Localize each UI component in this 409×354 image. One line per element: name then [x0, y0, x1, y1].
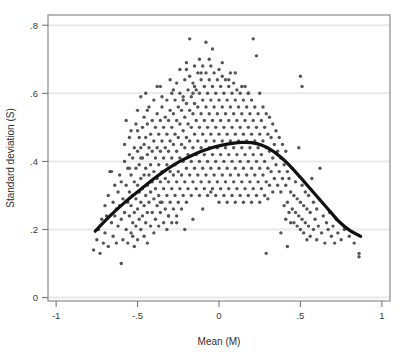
y-tick-label-3: .6 [30, 88, 38, 99]
data-point [190, 95, 193, 98]
data-point [253, 173, 256, 176]
data-point [136, 129, 139, 132]
data-point [199, 146, 202, 149]
data-point [263, 126, 266, 129]
data-point [237, 173, 240, 176]
data-point [206, 160, 209, 163]
chart-canvas: -1-.50.51 0.2.4.6.8 Mean (M) Standard de… [0, 0, 409, 354]
data-point [227, 153, 230, 156]
data-point [225, 167, 228, 170]
data-point [230, 194, 233, 197]
data-point [217, 132, 220, 135]
data-point [178, 68, 181, 71]
data-point [230, 160, 233, 163]
data-point [263, 160, 266, 163]
data-point [188, 109, 191, 112]
data-point [168, 170, 171, 173]
data-point [170, 156, 173, 159]
data-point [291, 207, 294, 210]
data-point [195, 119, 198, 122]
data-point [146, 241, 149, 244]
data-point [144, 136, 147, 139]
data-point [294, 180, 297, 183]
data-point [204, 139, 207, 142]
data-point [170, 187, 173, 190]
data-point [152, 231, 155, 234]
data-point [120, 218, 123, 221]
data-point [234, 201, 237, 204]
data-point [243, 119, 246, 122]
data-point [133, 146, 136, 149]
data-point [227, 78, 230, 81]
data-point [307, 224, 310, 227]
data-point [181, 98, 184, 101]
data-point [147, 146, 150, 149]
data-point [191, 92, 194, 95]
data-point [155, 204, 158, 207]
data-point [165, 228, 168, 231]
data-point [157, 194, 160, 197]
data-point [255, 126, 258, 129]
data-point [256, 112, 259, 115]
data-point [299, 201, 302, 204]
data-point [252, 153, 255, 156]
data-point [103, 231, 106, 234]
data-point [271, 190, 274, 193]
data-point [141, 126, 144, 129]
data-point [261, 139, 264, 142]
data-point [313, 218, 316, 221]
data-point [111, 235, 114, 238]
data-point [234, 132, 237, 135]
data-point [209, 64, 212, 67]
data-point [164, 146, 167, 149]
data-point [221, 139, 224, 142]
data-point [149, 132, 152, 135]
data-point [178, 92, 181, 95]
data-point [172, 207, 175, 210]
x-tick-label-1: -.5 [132, 310, 143, 321]
data-point [322, 214, 325, 217]
data-point [286, 245, 289, 248]
data-point [248, 180, 251, 183]
data-point [198, 126, 201, 129]
data-point [152, 197, 155, 200]
data-point [168, 109, 171, 112]
data-point [211, 47, 214, 50]
data-point [149, 190, 152, 193]
data-point [209, 98, 212, 101]
data-point [216, 180, 219, 183]
data-point [159, 85, 162, 88]
data-point [183, 146, 186, 149]
data-point [224, 146, 227, 149]
data-point [331, 224, 334, 227]
data-point [199, 78, 202, 81]
data-point [204, 71, 207, 74]
data-point [325, 221, 328, 224]
data-point [196, 139, 199, 142]
data-point [203, 119, 206, 122]
data-point [227, 85, 230, 88]
data-point [185, 167, 188, 170]
data-point [128, 153, 131, 156]
data-point [177, 105, 180, 108]
data-point [258, 167, 261, 170]
data-point [268, 115, 271, 118]
data-point [243, 153, 246, 156]
data-point [128, 214, 131, 217]
data-point [284, 184, 287, 187]
data-point [160, 105, 163, 108]
data-point [181, 194, 184, 197]
data-point [160, 95, 163, 98]
data-point [212, 173, 215, 176]
data-point [211, 119, 214, 122]
data-point [100, 218, 103, 221]
data-point [271, 122, 274, 125]
data-point [110, 170, 113, 173]
data-point [147, 201, 150, 204]
data-point [203, 85, 206, 88]
data-point [297, 214, 300, 217]
data-point [154, 187, 157, 190]
data-point [107, 194, 110, 197]
data-point [113, 184, 116, 187]
data-point [141, 214, 144, 217]
